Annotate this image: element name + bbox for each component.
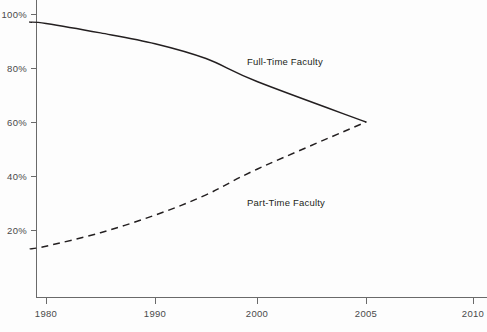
series-label-part-time-faculty: Part-Time Faculty — [247, 197, 325, 208]
x-tick-label-1990: 1990 — [144, 308, 166, 319]
x-tick-label-2000: 2000 — [246, 308, 268, 319]
x-tick-label-2010: 2010 — [462, 308, 484, 319]
series-line-full-time-faculty — [30, 22, 366, 122]
y-axis-ticks — [31, 15, 37, 231]
series-line-part-time-faculty — [30, 122, 366, 249]
faculty-composition-chart: 100% 80% 60% 40% 20% 1980 1990 2000 2005… — [0, 0, 487, 332]
y-tick-label-60: 60% — [7, 117, 27, 128]
x-tick-label-2005: 2005 — [355, 308, 377, 319]
chart-plot-area: 100% 80% 60% 40% 20% 1980 1990 2000 2005… — [0, 0, 487, 332]
y-tick-label-100: 100% — [2, 9, 28, 20]
series-label-full-time-faculty: Full-Time Faculty — [247, 56, 323, 67]
y-tick-label-20: 20% — [7, 225, 27, 236]
y-tick-label-80: 80% — [7, 63, 27, 74]
y-tick-label-40: 40% — [7, 171, 27, 182]
x-axis-ticks — [47, 298, 474, 304]
x-tick-label-1980: 1980 — [35, 308, 57, 319]
